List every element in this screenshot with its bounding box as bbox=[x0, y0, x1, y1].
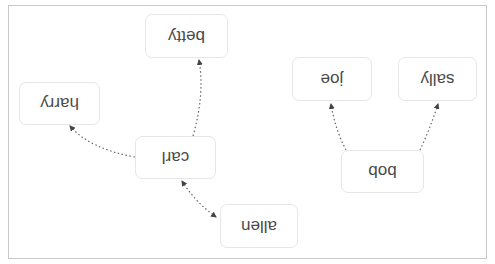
edge-carl-harry bbox=[70, 126, 135, 157]
edge-bob-joe bbox=[331, 104, 346, 150]
node-joe[interactable]: joe bbox=[292, 57, 372, 101]
node-label: allen bbox=[241, 216, 277, 236]
edge-bob-sally bbox=[420, 104, 438, 150]
node-harry[interactable]: harry bbox=[19, 82, 100, 125]
node-sally[interactable]: sally bbox=[398, 57, 477, 101]
node-allen[interactable]: allen bbox=[220, 204, 298, 248]
node-label: joe bbox=[321, 69, 344, 89]
node-label: sally bbox=[421, 69, 455, 89]
node-carl[interactable]: carl bbox=[135, 136, 216, 179]
node-label: carl bbox=[162, 148, 189, 168]
diagram-canvas: allen carl harry betty bob joe sally bbox=[0, 0, 495, 264]
node-label: harry bbox=[40, 94, 79, 114]
edge-allen-carl bbox=[182, 181, 216, 217]
node-betty[interactable]: betty bbox=[145, 14, 228, 58]
edge-carl-betty bbox=[193, 60, 201, 136]
node-label: bob bbox=[368, 162, 396, 182]
node-label: betty bbox=[168, 26, 205, 46]
node-bob[interactable]: bob bbox=[341, 150, 424, 193]
